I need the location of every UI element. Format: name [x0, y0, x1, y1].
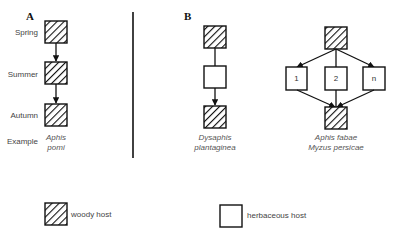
arrow-top-to-n	[336, 49, 374, 67]
arrow-n-to-bottom	[337, 90, 374, 107]
woody-host-box-summer	[45, 62, 67, 84]
woody-host-box-spring	[45, 21, 67, 43]
panel-b-label: B	[184, 10, 192, 22]
row-label-spring: Spring	[15, 28, 38, 37]
woody-host-box-autumn	[45, 104, 67, 126]
herbaceous-host-box-b1	[204, 66, 226, 88]
arrow-1-to-bottom	[297, 90, 335, 107]
box-number-n: n	[372, 74, 376, 83]
box-number-2: 2	[334, 74, 339, 83]
legend-herbaceous-label: herbaceous host	[247, 211, 307, 220]
woody-host-box-b2-top	[325, 27, 347, 49]
row-label-summer: Summer	[8, 70, 39, 79]
woody-host-box-b1-bottom	[204, 106, 226, 128]
row-label-autumn: Autumn	[10, 111, 38, 120]
legend-woody-swatch	[45, 203, 67, 225]
species-plantaginea: plantaginea	[193, 143, 236, 152]
legend-herbaceous-swatch	[220, 205, 242, 227]
species-pomi: pomi	[46, 143, 65, 152]
species-dysaphis: Dysaphis	[199, 133, 232, 142]
species-aphis-fabae: Aphis fabae	[314, 133, 358, 142]
arrow-top-to-1	[297, 49, 336, 67]
panel-a-label: A	[26, 10, 34, 22]
species-myzus-persicae: Myzus persicae	[308, 143, 364, 152]
species-aphis: Aphis	[45, 133, 66, 142]
woody-host-box-b2-bottom	[325, 107, 347, 129]
legend-woody-label: woody host	[70, 210, 112, 219]
box-number-1: 1	[294, 74, 299, 83]
host-alternation-diagram: A Spring Summer Autumn Example Aphis pom…	[0, 0, 396, 243]
woody-host-box-b1-top	[204, 26, 226, 48]
row-label-example: Example	[7, 137, 39, 146]
